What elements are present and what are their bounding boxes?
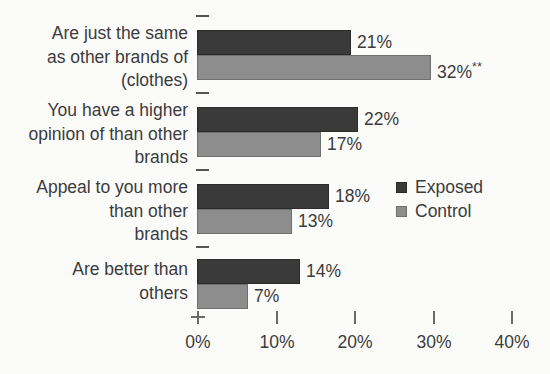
bar-value-exposed-0: 21% (357, 30, 392, 55)
chart-legend: Exposed Control (396, 175, 483, 223)
y-axis-tick (196, 169, 209, 171)
x-axis-tick-10 (276, 311, 278, 324)
x-axis-label-0: 0% (185, 332, 210, 352)
bar-value-exposed-2: 18% (335, 184, 370, 209)
x-axis-tick-40 (511, 311, 513, 324)
bar-control-2 (197, 209, 292, 234)
legend-swatch-icon-control (396, 206, 407, 217)
bar-value-control-1: 17% (327, 132, 362, 157)
legend-label-exposed: Exposed (415, 177, 483, 197)
legend-item-control: Control (396, 199, 483, 223)
bar-value-control-3: 7% (254, 284, 279, 309)
y-axis-tick (196, 246, 209, 248)
bar-control-3 (197, 284, 248, 309)
category-label-0: Are just the same as other brands of (cl… (0, 22, 188, 93)
bar-exposed-2 (197, 184, 329, 209)
category-label-1: You have a higher opinion of than other … (0, 99, 188, 170)
horizontal-bar-chart: Are just the same as other brands of (cl… (0, 0, 550, 374)
bar-value-exposed-1: 22% (364, 107, 399, 132)
y-axis-tick (196, 92, 209, 94)
x-axis-label-40: 40% (494, 332, 529, 352)
x-axis-tick-20 (354, 311, 356, 324)
bar-control-1 (197, 132, 321, 157)
significance-marker-0: ** (472, 60, 482, 74)
category-label-3: Are better than others (0, 258, 188, 305)
bar-value-exposed-3: 14% (306, 259, 341, 284)
legend-swatch-icon-exposed (396, 182, 407, 193)
x-axis-label-10: 10% (259, 332, 294, 352)
bar-value-control-2: 13% (298, 209, 333, 234)
bar-value-control-0-text: 32% (437, 62, 472, 82)
bar-exposed-1 (197, 107, 358, 132)
x-axis-tick-30 (433, 311, 435, 324)
bar-exposed-3 (197, 259, 300, 284)
bar-exposed-0 (197, 30, 351, 55)
bar-value-control-0: 32%** (437, 55, 482, 85)
x-axis-label-30: 30% (416, 332, 451, 352)
legend-label-control: Control (415, 201, 471, 221)
legend-item-exposed: Exposed (396, 175, 483, 199)
x-axis-tick-0 (197, 311, 199, 324)
y-axis-tick (196, 15, 209, 17)
category-label-2: Appeal to you more than other brands (0, 176, 188, 247)
plot-area: 21% 32%** 22% 17% 18% 13% 14% 7% 0% 10% … (197, 0, 550, 374)
bar-control-0 (197, 55, 431, 80)
x-axis-label-20: 20% (337, 332, 372, 352)
